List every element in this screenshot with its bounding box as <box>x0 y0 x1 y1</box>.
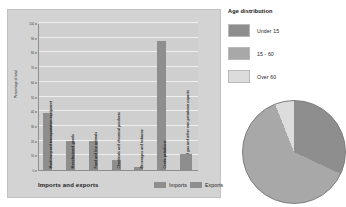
y-axis-tick-mark <box>35 38 37 39</box>
gridline <box>39 96 198 97</box>
y-axis-tick-label: 100 <box>29 23 34 26</box>
bar-category-label: Chemicals and chemical products <box>118 112 121 168</box>
age-label-15-60: 15 - 60 <box>257 51 274 57</box>
y-axis-tick-label: 40 <box>31 111 34 114</box>
age-legend-item-15-60: 15 - 60 <box>228 47 274 60</box>
gridline <box>39 22 198 23</box>
y-axis-tick-mark <box>35 68 37 69</box>
gridline <box>39 66 198 67</box>
y-axis-tick-label: 20 <box>31 140 34 143</box>
legend-swatch-exports <box>190 182 202 188</box>
y-axis-tick-label: 80 <box>31 52 34 55</box>
y-axis-tick-mark <box>35 24 37 25</box>
y-axis-tick-mark <box>35 82 37 83</box>
bar-chart-caption: Imports and exports <box>38 182 99 188</box>
y-axis-tick-mark <box>35 112 37 113</box>
y-axis-tick-label: 90 <box>31 37 34 40</box>
y-axis-tick-mark <box>35 97 37 98</box>
y-axis-tick-mark <box>35 156 37 157</box>
legend-label-imports: Imports <box>169 182 187 188</box>
age-distribution-title: Age distribution <box>228 8 272 14</box>
legend-swatch-imports <box>154 182 166 188</box>
age-swatch-under-15 <box>228 24 250 37</box>
y-axis-tick-mark <box>35 171 37 172</box>
y-axis-tick-label: 10 <box>31 155 34 158</box>
y-axis-tick-label: 60 <box>31 81 34 84</box>
bar <box>183 154 192 170</box>
gridline <box>39 81 198 82</box>
bar-category-label: Food and live animals <box>95 132 98 168</box>
y-axis-tick-label: 70 <box>31 67 34 70</box>
y-axis-tick-mark <box>35 126 37 127</box>
age-label-under-15: Under 15 <box>257 28 279 34</box>
y-axis-tick-mark <box>35 53 37 54</box>
bar-category-label: Machinery and transportation equipment <box>49 100 52 168</box>
bar-category-label: Manufactured goods <box>72 134 75 168</box>
bar-chart-panel: Percentage of total 01020304050607080901… <box>7 9 221 198</box>
gridline <box>39 37 198 38</box>
y-axis-tick-label: 30 <box>31 125 34 128</box>
y-axis-tick-label: 0 <box>32 170 34 173</box>
age-distribution-pie-chart <box>242 100 346 204</box>
plot-area: Machinery and transportation equipmentMa… <box>38 24 198 171</box>
legend-label-exports: Exports <box>205 182 223 188</box>
plot-area-wrapper: Machinery and transportation equipmentMa… <box>38 24 198 171</box>
age-legend-item-over-60: Over 60 <box>228 70 276 83</box>
bar-category-label: Beverages and tobacco <box>141 129 144 168</box>
y-axis-tick-label: 50 <box>31 96 34 99</box>
y-axis-tick-mark <box>35 141 37 142</box>
age-distribution-panel: Age distribution Under 15 15 - 60 Over 6… <box>228 4 340 207</box>
gridline <box>39 51 198 52</box>
bar-chart-legend: Imports Exports <box>154 182 223 188</box>
age-swatch-15-60 <box>228 47 250 60</box>
y-axis-ticks: 0102030405060708090100 <box>7 24 37 171</box>
age-swatch-over-60 <box>228 70 250 83</box>
bar-category-label: Crude petroleum <box>163 140 166 168</box>
age-legend-item-under-15: Under 15 <box>228 24 279 37</box>
age-label-over-60: Over 60 <box>257 74 276 80</box>
